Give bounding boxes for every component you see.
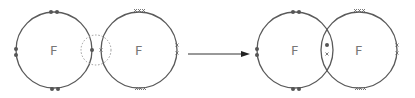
unpaired-electron-dot-icon [90,48,94,52]
element-symbol: F [291,43,298,58]
electron-cross-icon [362,9,365,12]
electron-dot-icon [255,53,259,57]
electron-dot-icon [255,47,259,51]
element-symbol: F [355,43,362,58]
element-symbol: F [135,43,142,58]
electron-dot-icon [297,87,301,91]
f2-bond-diagram: F F [0,0,415,98]
reaction-arrow [188,51,250,57]
element-symbol: F [50,43,57,58]
shared-electron-cross-icon [326,53,329,56]
atom-f-left-before: F [14,10,94,91]
electron-dot-icon [56,87,60,91]
electron-dot-icon [291,10,295,14]
electron-dot-icon [49,10,53,14]
electron-dot-icon [14,47,18,51]
electron-dot-icon [50,87,54,91]
electron-cross-icon [142,9,145,12]
shared-electron-pair [325,43,329,56]
electron-dot-icon [55,10,59,14]
electron-dot-icon [14,53,18,57]
overlap-highlight-circle [81,35,111,65]
electron-dot-icon [297,10,301,14]
shared-electron-dot-icon [325,43,329,47]
electron-dot-icon [291,87,295,91]
arrow-head-icon [241,51,250,57]
